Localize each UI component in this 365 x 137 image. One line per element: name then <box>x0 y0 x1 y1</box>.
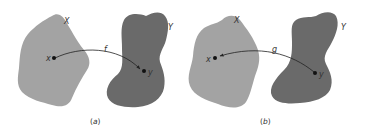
point-y <box>313 71 317 75</box>
panel-b: X Y x y g (b) <box>189 12 347 126</box>
set-y-label: Y <box>341 23 347 32</box>
set-x-region <box>189 16 260 108</box>
point-x-label: x <box>45 54 51 63</box>
point-x-label: x <box>205 55 211 64</box>
set-x-label: X <box>233 16 240 25</box>
set-x-label: X <box>63 17 70 26</box>
mapping-diagram: X Y x y f (a) X Y x y g (b) <box>0 0 365 137</box>
caption-a: (a) <box>90 117 101 126</box>
point-x <box>52 56 56 60</box>
point-y <box>142 69 146 73</box>
point-y-label: y <box>318 70 324 79</box>
set-x-region <box>18 14 90 106</box>
map-label-g: g <box>272 45 277 54</box>
map-label-f: f <box>104 45 108 54</box>
point-x <box>213 56 217 60</box>
set-y-label: Y <box>168 23 174 32</box>
caption-b: (b) <box>260 117 271 126</box>
set-y-region <box>271 12 338 103</box>
point-y-label: y <box>147 68 153 77</box>
panel-a: X Y x y f (a) <box>18 13 174 126</box>
set-y-region <box>107 13 168 108</box>
